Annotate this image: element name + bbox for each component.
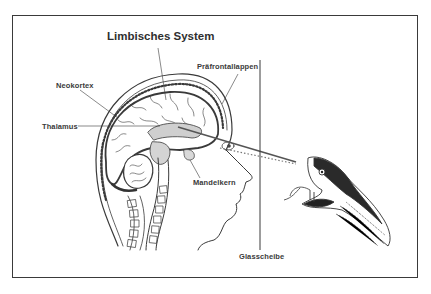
head-and-snake-illustration xyxy=(0,0,431,294)
diagram-title: Limbisches System xyxy=(107,30,214,42)
snake-head xyxy=(284,157,390,246)
face-profile xyxy=(198,150,252,250)
cerebellum xyxy=(124,154,153,188)
label-glasscheibe: Glasscheibe xyxy=(239,252,284,261)
sight-line xyxy=(178,127,296,162)
label-thalamus: Thalamus xyxy=(42,122,78,131)
label-neokortex: Neokortex xyxy=(56,81,94,90)
label-praefrontallappen: Präfrontallappen xyxy=(197,62,258,71)
label-mandelkern: Mandelkern xyxy=(193,178,236,187)
